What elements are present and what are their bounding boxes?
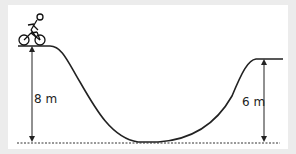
cyclist-icon [19, 14, 45, 45]
track-diagram [0, 0, 296, 154]
right-height-label: 6 m [242, 95, 265, 109]
left-height-label: 8 m [34, 92, 57, 106]
track-curve [18, 46, 283, 142]
